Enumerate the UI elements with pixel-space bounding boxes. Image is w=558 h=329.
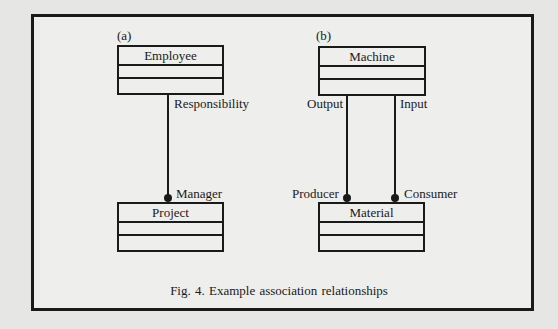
filled-dot-icon [391, 194, 399, 202]
class-project: Project [117, 202, 224, 252]
class-name: Employee [119, 47, 222, 66]
class-attributes-compartment [119, 223, 222, 236]
class-operations-compartment [320, 236, 423, 252]
role-label-manager: Manager [176, 187, 222, 200]
role-label-producer: Producer [292, 187, 339, 200]
figure-caption: Fig. 4. Example association relationship… [0, 284, 558, 298]
class-attributes-compartment [320, 223, 423, 236]
class-machine: Machine [318, 46, 426, 96]
class-name: Project [119, 204, 222, 223]
class-operations-compartment [119, 79, 222, 95]
class-employee: Employee [117, 45, 224, 95]
class-attributes-compartment [320, 67, 424, 80]
association-line-output-producer [346, 96, 348, 200]
association-line-responsibility [167, 95, 169, 200]
association-line-input-consumer [394, 96, 396, 200]
class-name: Machine [320, 48, 424, 67]
class-operations-compartment [119, 236, 222, 252]
class-operations-compartment [320, 80, 424, 96]
filled-dot-icon [164, 194, 172, 202]
filled-dot-icon [343, 194, 351, 202]
role-label-output: Output [307, 97, 343, 110]
class-attributes-compartment [119, 66, 222, 79]
class-name: Material [320, 204, 423, 223]
figure-frame [31, 14, 534, 311]
panel-label-a: (a) [117, 29, 131, 42]
class-material: Material [318, 202, 425, 252]
role-label-responsibility: Responsibility [174, 97, 249, 110]
role-label-input: Input [400, 97, 427, 110]
role-label-consumer: Consumer [404, 187, 457, 200]
panel-label-b: (b) [316, 29, 331, 42]
